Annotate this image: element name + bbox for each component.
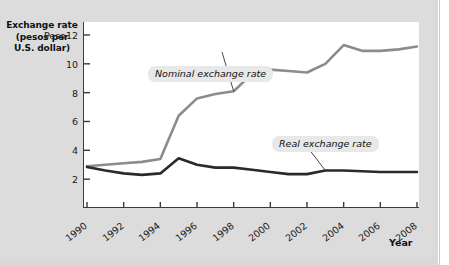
- x-axis-tick-label: 1998: [210, 220, 236, 244]
- annotation-real-exchange-rate: Real exchange rate: [272, 136, 379, 152]
- x-axis-tick-labels: 1990199219941996199820002002200420062008: [83, 208, 419, 254]
- y-axis-tick-label: 2: [28, 174, 78, 185]
- y-axis-tick-label: 10: [28, 58, 78, 69]
- x-axis-tick-label: 2006: [357, 220, 383, 244]
- y-axis-tick-labels: 246810Peso12: [28, 22, 78, 208]
- y-axis-tick-label: 4: [28, 145, 78, 156]
- x-axis-tick-label: 1992: [100, 220, 126, 244]
- plot-area: [83, 22, 419, 208]
- page-rule: [439, 0, 440, 265]
- y-axis-tick-label: 8: [28, 87, 78, 98]
- x-axis-caption: Year: [389, 237, 413, 248]
- x-axis-tick-label: 2002: [283, 220, 309, 244]
- x-axis-tick-label: 1996: [173, 220, 199, 244]
- chart-figure: Exchange rate (pesos per U.S. dollar) 24…: [0, 0, 449, 265]
- x-axis-tick-label: 2000: [247, 220, 273, 244]
- annotation-nominal-exchange-rate: Nominal exchange rate: [148, 66, 273, 82]
- series-line: [87, 158, 417, 175]
- series-canvas: [84, 22, 420, 208]
- y-axis-tick-label: Peso12: [28, 29, 78, 40]
- y-axis-tick-label: 6: [28, 116, 78, 127]
- y-axis-ticks: [84, 35, 90, 179]
- x-axis-tick-label: 2004: [320, 220, 346, 244]
- x-axis-tick-label: 1994: [137, 220, 163, 244]
- data-series-group: [87, 45, 417, 175]
